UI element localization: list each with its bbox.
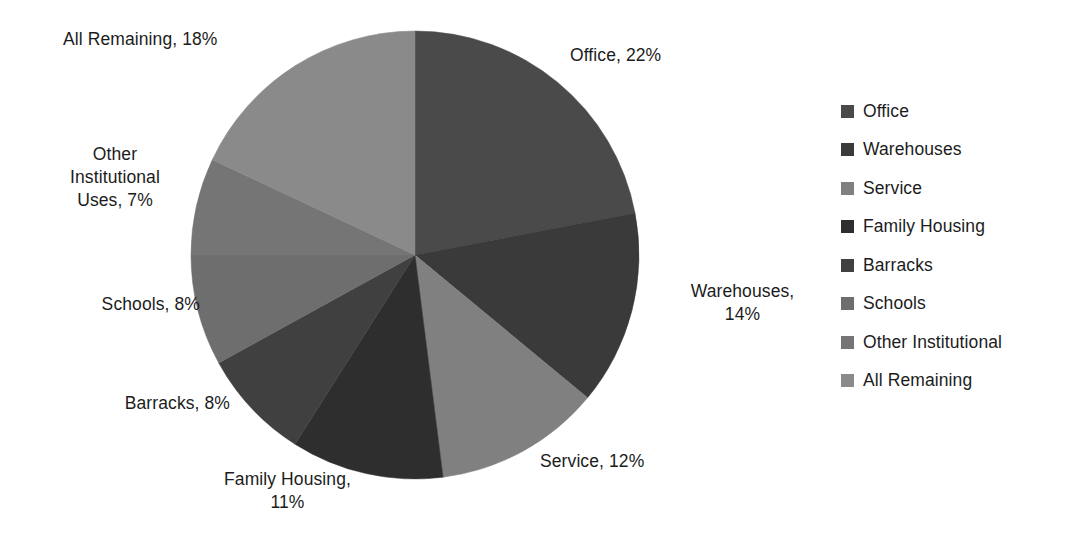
- legend-item-service: Service: [841, 169, 1061, 208]
- pie-chart-figure: All Remaining, 18% Other Institutional U…: [0, 0, 1068, 549]
- legend-item-all-remaining: All Remaining: [841, 362, 1061, 401]
- slice-callout-other-institutional: Other Institutional Uses, 7%: [40, 143, 190, 211]
- chart-legend: OfficeWarehousesServiceFamily HousingBar…: [841, 92, 1061, 400]
- legend-item-label: Schools: [863, 295, 926, 313]
- slice-callout-office: Office, 22%: [570, 44, 750, 67]
- legend-swatch-icon: [841, 182, 854, 195]
- legend-item-label: Office: [863, 103, 909, 121]
- legend-item-office: Office: [841, 92, 1061, 131]
- legend-item-warehouses: Warehouses: [841, 131, 1061, 170]
- pie-slice-group: [191, 31, 639, 479]
- legend-item-label: All Remaining: [863, 372, 972, 390]
- legend-swatch-icon: [841, 297, 854, 310]
- legend-item-family-housing: Family Housing: [841, 208, 1061, 247]
- legend-swatch-icon: [841, 220, 854, 233]
- legend-swatch-icon: [841, 336, 854, 349]
- slice-callout-service: Service, 12%: [540, 450, 720, 473]
- legend-item-label: Family Housing: [863, 218, 985, 236]
- legend-item-other-institutional: Other Institutional: [841, 323, 1061, 362]
- slice-callout-family-housing: Family Housing, 11%: [175, 468, 400, 514]
- slice-callout-warehouses: Warehouses, 14%: [660, 280, 825, 326]
- legend-swatch-icon: [841, 374, 854, 387]
- pie-svg: [190, 30, 640, 480]
- legend-swatch-icon: [841, 143, 854, 156]
- legend-item-label: Service: [863, 180, 922, 198]
- legend-item-label: Other Institutional: [863, 334, 1002, 352]
- slice-callout-all-remaining: All Remaining, 18%: [63, 28, 303, 51]
- legend-item-barracks: Barracks: [841, 246, 1061, 285]
- legend-item-schools: Schools: [841, 285, 1061, 324]
- slice-callout-schools: Schools, 8%: [20, 293, 200, 316]
- legend-item-label: Warehouses: [863, 141, 962, 159]
- legend-item-label: Barracks: [863, 257, 933, 275]
- pie-graphic: [190, 30, 640, 480]
- legend-swatch-icon: [841, 105, 854, 118]
- legend-swatch-icon: [841, 259, 854, 272]
- slice-callout-barracks: Barracks, 8%: [20, 392, 230, 415]
